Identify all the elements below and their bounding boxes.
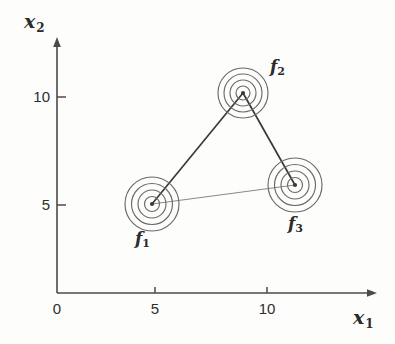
y-axis-title-sub: 2 [36,21,44,35]
point-label-f3-sub: 3 [295,222,303,235]
contour-cluster-f2 [218,68,268,118]
x-tick-label-5: 5 [146,300,164,317]
point-label-f1-sub: 1 [142,237,150,250]
y-axis-title: x2 [24,10,44,32]
x-axis-ticks [155,287,267,293]
x-axis-title-sub: 1 [365,317,373,331]
y-tick-label-5: 5 [24,196,50,213]
x-axis-title: x1 [353,306,373,328]
x-tick-label-0: 0 [48,300,66,317]
contour-triangle-figure: x2 x1 0 5 10 10 5 f1 f2 f3 [0,0,395,344]
y-axis [53,37,61,293]
x-axis-title-base: x [353,306,364,328]
x-axis [57,289,377,297]
y-axis-title-base: x [24,10,35,32]
x-tick-label-10: 10 [254,300,280,317]
contour-cluster-f1 [125,177,179,231]
point-label-f2-sub: 2 [277,65,285,78]
plot-canvas [0,0,395,344]
y-axis-ticks [57,97,66,205]
edge-f2-f3 [243,93,295,185]
y-tick-label-10: 10 [24,88,50,105]
edge-f1-f2 [152,93,243,204]
contour-cluster-f3 [268,158,322,212]
point-label-f2: f2 [270,56,285,76]
point-label-f3: f3 [288,213,303,233]
point-label-f1: f1 [135,228,150,248]
